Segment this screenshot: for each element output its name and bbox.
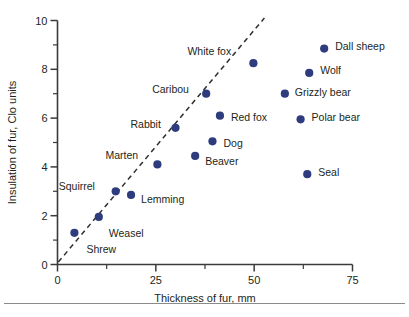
- data-point-marker[interactable]: [208, 137, 216, 145]
- data-point-marker[interactable]: [320, 44, 328, 52]
- data-point-marker[interactable]: [296, 115, 304, 123]
- data-point-label: Beaver: [205, 155, 239, 167]
- data-point-label: Squirrel: [59, 180, 95, 192]
- data-point-label: Weasel: [109, 227, 144, 239]
- data-point-marker[interactable]: [305, 69, 313, 77]
- y-axis-tick-label: 4: [41, 161, 47, 173]
- data-point-marker[interactable]: [281, 90, 289, 98]
- x-axis-tick-label: 75: [346, 274, 358, 286]
- data-point-label: White fox: [187, 45, 232, 57]
- data-point-marker[interactable]: [249, 59, 257, 67]
- data-point-label: Grizzly bear: [295, 86, 352, 98]
- data-point-marker[interactable]: [216, 112, 224, 120]
- data-point-marker[interactable]: [202, 90, 210, 98]
- data-point-label: Seal: [318, 166, 339, 178]
- x-axis-tick-label: 25: [150, 274, 162, 286]
- data-point-marker[interactable]: [171, 124, 179, 132]
- x-axis-tick-label: 50: [248, 274, 260, 286]
- y-axis-title: Insulation of fur, Clo units: [6, 80, 18, 204]
- data-point-label: Polar bear: [312, 111, 361, 123]
- data-point-marker[interactable]: [153, 160, 161, 168]
- data-point-label: Shrew: [86, 243, 116, 255]
- data-point-marker[interactable]: [70, 229, 78, 237]
- data-point-marker[interactable]: [112, 187, 120, 195]
- x-axis-title: Thickness of fur, mm: [154, 292, 255, 304]
- y-axis-tick-label: 6: [41, 112, 47, 124]
- y-axis-tick-label: 8: [41, 63, 47, 75]
- plot-canvas: 02468100255075Thickness of fur, mmInsula…: [0, 0, 409, 317]
- data-point-marker[interactable]: [95, 213, 103, 221]
- y-axis-tick-label: 0: [41, 259, 47, 271]
- scatter-chart-figure: 02468100255075Thickness of fur, mmInsula…: [0, 0, 409, 317]
- data-point-marker[interactable]: [191, 152, 199, 160]
- data-point-label: Marten: [105, 149, 138, 161]
- data-point-label: Caribou: [152, 83, 189, 95]
- data-point-label: Wolf: [320, 64, 341, 76]
- data-point-label: Red fox: [231, 111, 268, 123]
- x-axis-tick-label: 0: [54, 274, 60, 286]
- data-point-marker[interactable]: [303, 170, 311, 178]
- y-axis-tick-label: 2: [41, 210, 47, 222]
- y-axis-tick-label: 10: [35, 15, 47, 27]
- data-point-label: Dall sheep: [335, 40, 385, 52]
- data-point-marker[interactable]: [127, 191, 135, 199]
- footer-divider: [4, 303, 405, 304]
- data-point-label: Rabbit: [131, 118, 161, 130]
- data-point-label: Dog: [223, 137, 242, 149]
- data-point-label: Lemming: [141, 193, 184, 205]
